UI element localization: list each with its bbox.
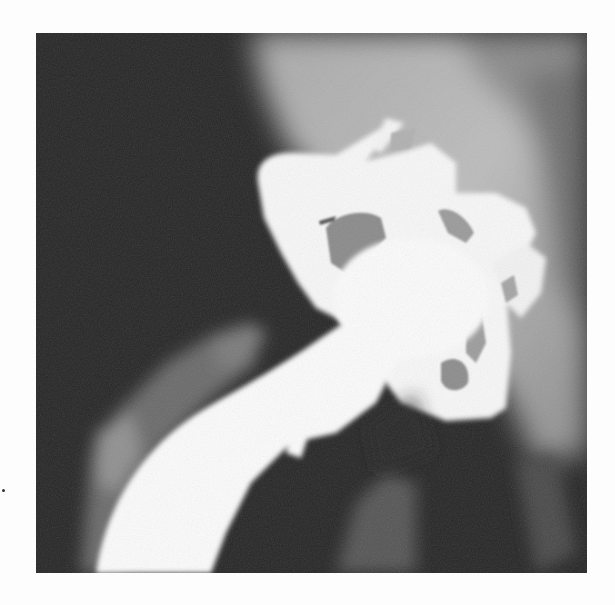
film-grain	[36, 33, 587, 573]
radiograph-rendering	[36, 33, 587, 573]
margin-speck	[2, 489, 5, 492]
xray-image	[36, 33, 587, 573]
page-background	[0, 0, 615, 605]
